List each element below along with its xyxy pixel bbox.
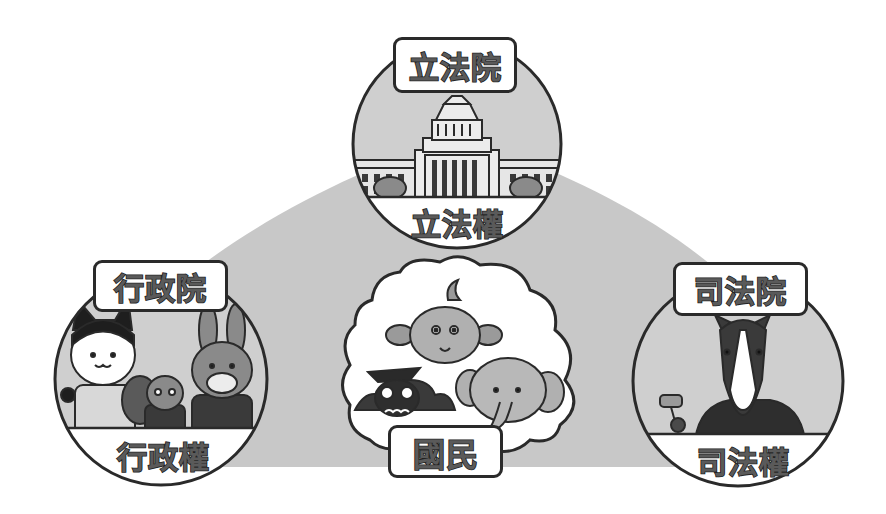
executive-power-label: 行政權 <box>96 433 230 477</box>
legislative-power-label: 立法權 <box>390 200 524 244</box>
judicial-institution-label: 司法院 <box>673 262 808 316</box>
people-label: 國民 <box>388 425 503 478</box>
legislative-institution-label: 立法院 <box>393 37 517 93</box>
judicial-power-label: 司法權 <box>676 438 810 482</box>
executive-institution-label: 行政院 <box>93 260 228 312</box>
